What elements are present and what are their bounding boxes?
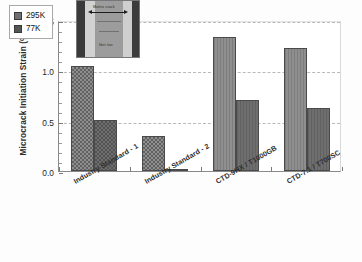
y-tick-label-0.0: 0.0 <box>28 168 59 178</box>
chart-legend: 295K 77K <box>9 5 53 39</box>
y-minor-tick <box>59 153 62 154</box>
inset-band-center <box>95 1 123 57</box>
x-tick-mark <box>201 167 202 171</box>
y-minor-tick <box>59 113 62 114</box>
y-minor-tick <box>59 62 62 63</box>
bar-295k-group-1 <box>71 66 94 171</box>
bar-295k-group-3 <box>213 37 236 171</box>
inset-caption-top: Matrix crack <box>93 5 115 9</box>
legend-swatch-77k <box>14 25 22 33</box>
y-tick-mark-0.5 <box>59 123 63 124</box>
x-tick-mark <box>342 167 343 171</box>
x-tick-mark <box>59 167 60 171</box>
y-tick-mark-0.0 <box>59 173 63 174</box>
chart-figure: Microcrack Initiation Strain (%) 0.00.51… <box>0 0 362 262</box>
y-tick-label-1.0: 1.0 <box>28 67 59 77</box>
legend-swatch-295k <box>14 12 22 20</box>
y-minor-tick <box>59 82 62 83</box>
y-minor-tick <box>59 52 62 53</box>
y-tick-mark-1.5 <box>59 22 63 23</box>
legend-label-77k: 77K <box>26 24 41 33</box>
y-minor-tick <box>59 42 62 43</box>
x-tick-mark <box>271 167 272 171</box>
legend-item-295k: 295K <box>14 9 45 22</box>
inset-micrograph-image: Matrix crack fiber tow <box>76 0 140 58</box>
inset-measure-arrow-icon <box>91 12 125 13</box>
inset-band-left-dark <box>77 1 85 57</box>
inset-crack-line-1 <box>97 21 121 22</box>
y-tick-label-0.5: 0.5 <box>28 118 59 128</box>
y-tick-mark-1.0 <box>59 72 63 73</box>
y-minor-tick <box>59 143 62 144</box>
y-minor-tick <box>59 103 62 104</box>
x-tick-mark <box>130 167 131 171</box>
y-minor-tick <box>59 163 62 164</box>
y-minor-tick <box>59 32 62 33</box>
inset-band-right-dark <box>132 1 140 57</box>
y-minor-tick <box>59 133 62 134</box>
legend-label-295k: 295K <box>26 11 45 20</box>
bar-295k-group-4 <box>284 48 307 171</box>
y-minor-tick <box>59 92 62 93</box>
legend-item-77k: 77K <box>14 22 45 35</box>
inset-caption-bottom: fiber tow <box>99 43 113 47</box>
inset-crack-line-2 <box>99 31 119 32</box>
